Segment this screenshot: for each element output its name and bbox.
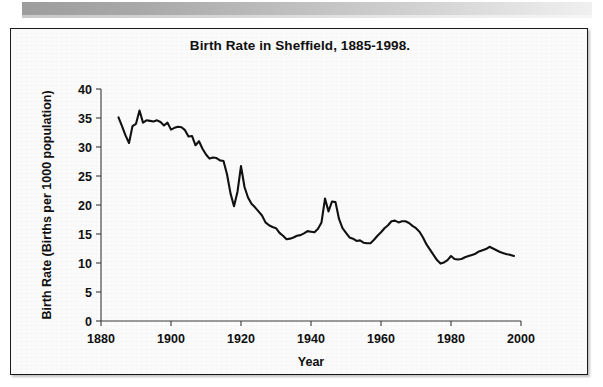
y-tick-label: 30 [78, 141, 92, 155]
y-tick-label: 35 [78, 112, 92, 126]
x-tick-label: 1900 [157, 332, 185, 346]
series-line-birth-rate [119, 110, 515, 263]
page-root: Birth Rate in Sheffield, 1885-1998. 0510… [0, 0, 603, 387]
birth-rate-line-chart: 0510152025303540 18801900192019401960198… [11, 29, 589, 376]
x-tick-label: 1980 [437, 332, 465, 346]
y-tick-label: 20 [78, 199, 92, 213]
x-tick-label: 2000 [507, 332, 535, 346]
x-tick-label: 1920 [227, 332, 255, 346]
scan-gray-band [22, 2, 592, 15]
x-axis: 1880190019201940196019802000 [87, 321, 535, 346]
x-tick-label: 1960 [367, 332, 395, 346]
chart-frame: Birth Rate in Sheffield, 1885-1998. 0510… [10, 28, 588, 375]
y-tick-label: 10 [78, 257, 92, 271]
y-tick-label: 5 [85, 286, 92, 300]
x-tick-label: 1940 [297, 332, 325, 346]
data-series [119, 110, 515, 263]
y-tick-label: 25 [78, 170, 92, 184]
y-axis-title: Birth Rate (Births per 1000 population) [40, 90, 54, 319]
x-tick-label: 1880 [87, 332, 115, 346]
x-axis-title: Year [298, 355, 325, 369]
y-tick-label: 0 [85, 315, 92, 329]
y-axis: 0510152025303540 [78, 83, 101, 329]
y-tick-label: 15 [78, 228, 92, 242]
y-tick-label: 40 [78, 83, 92, 97]
scan-gray-band-shadow [22, 15, 592, 18]
